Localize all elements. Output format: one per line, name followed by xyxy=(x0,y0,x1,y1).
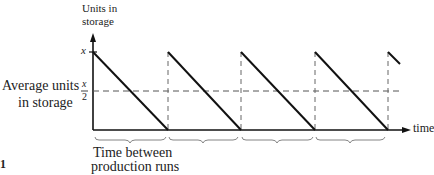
tick-label-x: x xyxy=(81,44,86,56)
tick-label-half-denominator: 2 xyxy=(82,91,87,102)
corner-mark: 1 xyxy=(0,157,6,172)
x-axis-arrow-icon xyxy=(402,127,411,133)
y-axis-label-line2: storage xyxy=(82,15,114,27)
y-axis-arrow-icon xyxy=(90,33,96,42)
average-label-line1: Average units xyxy=(2,78,79,94)
period-label-line2: production runs xyxy=(91,159,179,175)
x-axis-label: time xyxy=(413,121,434,136)
y-axis-label-line1: Units in xyxy=(82,2,117,14)
tick-label-half-numerator: x xyxy=(82,78,86,89)
period-braces xyxy=(95,137,385,143)
average-label-line2: in storage xyxy=(18,95,73,111)
